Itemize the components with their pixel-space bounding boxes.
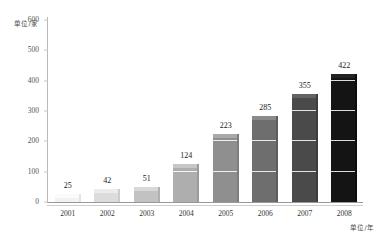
- bar-body: [252, 116, 278, 202]
- bar-top-face: [173, 164, 199, 168]
- bar-side-face: [118, 189, 120, 202]
- y-tick-label: 100: [3, 168, 39, 176]
- bar-body: [173, 164, 199, 202]
- bar-value-label: 124: [156, 152, 216, 160]
- y-tick-mark: [44, 80, 48, 81]
- y-tick-mark: [44, 202, 48, 203]
- bar-side-face: [197, 164, 199, 202]
- bar: [252, 116, 278, 202]
- bar-side-face: [79, 194, 81, 202]
- bar-top-face: [292, 94, 318, 98]
- y-tick-label: 200: [3, 138, 39, 146]
- bar-segment-divider: [252, 140, 278, 141]
- bar: [331, 74, 357, 202]
- bar-segment-divider: [252, 171, 278, 172]
- bar-value-label: 422: [314, 62, 374, 70]
- bar-side-face: [276, 116, 278, 202]
- bar-side-face: [355, 74, 357, 202]
- bar: [55, 194, 81, 202]
- y-tick-label: 0: [3, 198, 39, 206]
- bar-top-face: [213, 134, 239, 138]
- bar: [173, 164, 199, 202]
- bar-top-face: [134, 187, 160, 191]
- x-category-label: 2008: [314, 210, 374, 218]
- bar-segment-divider: [213, 140, 239, 141]
- bar-top-face: [94, 189, 120, 193]
- y-tick-mark: [44, 111, 48, 112]
- bar: [213, 134, 239, 202]
- bar: [134, 187, 160, 202]
- bar-segment-divider: [331, 110, 357, 111]
- bar-top-face: [252, 116, 278, 120]
- bar-segment-divider: [292, 110, 318, 111]
- x-axis-label: 单位/年: [350, 222, 374, 232]
- bar-body: [292, 94, 318, 202]
- y-tick-label: 400: [3, 77, 39, 85]
- bar-segment-divider: [292, 140, 318, 141]
- bar-value-label: 285: [235, 104, 295, 112]
- bar: [94, 189, 120, 202]
- bar-chart: 单位/家 单位/年 0100200300400500600 2542511242…: [0, 0, 382, 238]
- y-tick-mark: [44, 171, 48, 172]
- bar-side-face: [158, 187, 160, 202]
- plot-area: 0100200300400500600 25425112422328535542…: [47, 17, 363, 203]
- bar-segment-divider: [331, 80, 357, 81]
- bar-side-face: [237, 134, 239, 202]
- bar-body: [331, 74, 357, 202]
- bar-value-label: 223: [196, 122, 256, 130]
- y-tick-label: 300: [3, 107, 39, 115]
- bar-body: [213, 134, 239, 202]
- bar-segment-divider: [292, 171, 318, 172]
- bar-value-label: 51: [117, 175, 177, 183]
- x-axis-line-secondary: [47, 205, 363, 206]
- bar-top-face: [331, 74, 357, 78]
- bar-segment-divider: [331, 140, 357, 141]
- y-tick-mark: [44, 20, 48, 21]
- bar-segment-divider: [173, 171, 199, 172]
- y-tick-label: 500: [3, 47, 39, 55]
- bar-top-face: [55, 194, 81, 198]
- bar-value-label: 355: [275, 82, 335, 90]
- bar-segment-divider: [331, 171, 357, 172]
- bar: [292, 94, 318, 202]
- y-tick-label: 600: [3, 16, 39, 24]
- bar-side-face: [316, 94, 318, 202]
- y-tick-mark: [44, 141, 48, 142]
- x-axis-line: [47, 202, 363, 203]
- bar-segment-divider: [213, 171, 239, 172]
- y-tick-mark: [44, 50, 48, 51]
